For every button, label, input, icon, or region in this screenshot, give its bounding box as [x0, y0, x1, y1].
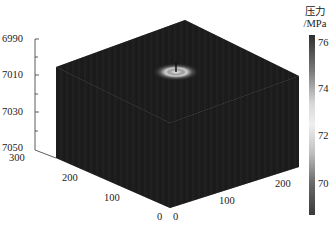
colorbar: [309, 35, 315, 215]
z-tick-7010: 7010: [2, 69, 23, 80]
cube: [56, 20, 299, 208]
colorbar-tick-72: 72: [318, 130, 329, 141]
x-tick-100: 100: [104, 192, 120, 203]
cube-silhouette: [56, 20, 299, 208]
x-tick-0: 0: [157, 211, 162, 222]
z-axis: [35, 39, 56, 158]
z-tick-6990: 6990: [2, 33, 23, 44]
colorbar-tick-74: 74: [318, 83, 329, 94]
y-tick-0: 0: [173, 211, 178, 222]
y-tick-200: 200: [275, 178, 291, 189]
colorbar-tick-76: 76: [318, 37, 329, 48]
colorbar-title-line1: 压力: [300, 6, 330, 18]
colorbar-tick-70: 70: [318, 178, 329, 189]
pressure-cube-chart: [0, 0, 336, 235]
x-tick-300: 300: [9, 152, 25, 163]
x-tick-200: 200: [62, 172, 78, 183]
colorbar-title-line2: /MPa: [298, 18, 332, 30]
y-tick-100: 100: [219, 195, 235, 206]
z-tick-7030: 7030: [2, 106, 23, 117]
